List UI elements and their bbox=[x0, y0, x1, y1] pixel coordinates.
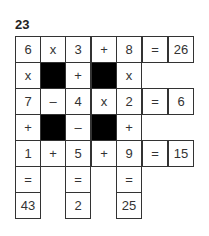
puzzle-number: 23 bbox=[15, 17, 29, 32]
grid-cell: 5 bbox=[65, 140, 91, 167]
grid-cell: x bbox=[91, 88, 117, 115]
grid-cell: 7 bbox=[15, 88, 41, 115]
grid-cell: x bbox=[116, 62, 142, 89]
grid-cell: – bbox=[65, 114, 91, 141]
grid-cell: 6 bbox=[168, 88, 194, 115]
grid-cell: x bbox=[15, 62, 41, 89]
blocked-cell bbox=[91, 62, 117, 89]
grid-cell: 9 bbox=[116, 140, 142, 167]
grid-cell: 3 bbox=[65, 36, 91, 63]
grid-cell: = bbox=[65, 166, 91, 193]
blocked-cell bbox=[40, 62, 66, 89]
grid-cell: 1 bbox=[15, 140, 41, 167]
grid-cell: 6 bbox=[15, 36, 41, 63]
grid-cell: 25 bbox=[116, 192, 142, 219]
grid-cell: = bbox=[142, 140, 168, 167]
grid-cell: = bbox=[142, 88, 168, 115]
grid-cell: 43 bbox=[15, 192, 41, 219]
grid-cell: – bbox=[40, 88, 66, 115]
grid-cell: + bbox=[91, 36, 117, 63]
grid-cell: 26 bbox=[168, 36, 194, 63]
blocked-cell bbox=[40, 114, 66, 141]
grid-cell: = bbox=[142, 36, 168, 63]
grid-cell: x bbox=[40, 36, 66, 63]
grid-cell: = bbox=[116, 166, 142, 193]
grid-cell: + bbox=[91, 140, 117, 167]
grid-cell: + bbox=[116, 114, 142, 141]
blocked-cell bbox=[91, 114, 117, 141]
grid-cell: 15 bbox=[168, 140, 194, 167]
grid-cell: + bbox=[40, 140, 66, 167]
grid-cell: + bbox=[65, 62, 91, 89]
grid-cell: + bbox=[15, 114, 41, 141]
grid-cell: 8 bbox=[116, 36, 142, 63]
grid-cell: 4 bbox=[65, 88, 91, 115]
grid-cell: 2 bbox=[65, 192, 91, 219]
grid-cell: = bbox=[15, 166, 41, 193]
grid-cell: 2 bbox=[116, 88, 142, 115]
